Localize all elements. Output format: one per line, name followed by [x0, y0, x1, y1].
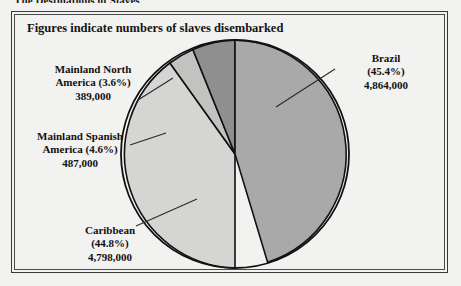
pie-chart: Brazil (45.4%) 4,864,000 Mainland North … [14, 14, 445, 270]
pie-label-caribbean-percent: (44.8%) [56, 237, 164, 250]
pie-label-mainland-north-america: Mainland North America (3.6%) 389,000 [32, 63, 154, 103]
pie-label-brazil: Brazil (45.4%) 4,864,000 [343, 52, 429, 92]
pie-label-mna-line1: Mainland North [32, 63, 154, 76]
pie-label-msa-line2: America (4.6%) [16, 143, 144, 156]
pie-label-brazil-percent: (45.4%) [343, 65, 429, 78]
pie-label-mna-value: 389,000 [32, 90, 154, 103]
pie-label-mna-line2: America (3.6%) [32, 76, 154, 89]
pie-label-caribbean-name: Caribbean [56, 224, 164, 237]
document-title: The Destinations of Slaves [14, 0, 140, 3]
pie-label-msa-value: 487,000 [16, 157, 144, 170]
pie-label-brazil-name: Brazil [343, 52, 429, 65]
pie-slice-brazil[interactable] [235, 40, 346, 262]
pie-label-caribbean: Caribbean (44.8%) 4,798,000 [56, 224, 164, 264]
pie-label-msa-line1: Mainland Spanish [16, 130, 144, 143]
pie-label-mainland-spanish-america: Mainland Spanish America (4.6%) 487,000 [16, 130, 144, 170]
figure-page: The Destinations of Slaves Figures indic… [0, 0, 461, 286]
pie-label-brazil-value: 4,864,000 [343, 79, 429, 92]
pie-label-caribbean-value: 4,798,000 [56, 251, 164, 264]
